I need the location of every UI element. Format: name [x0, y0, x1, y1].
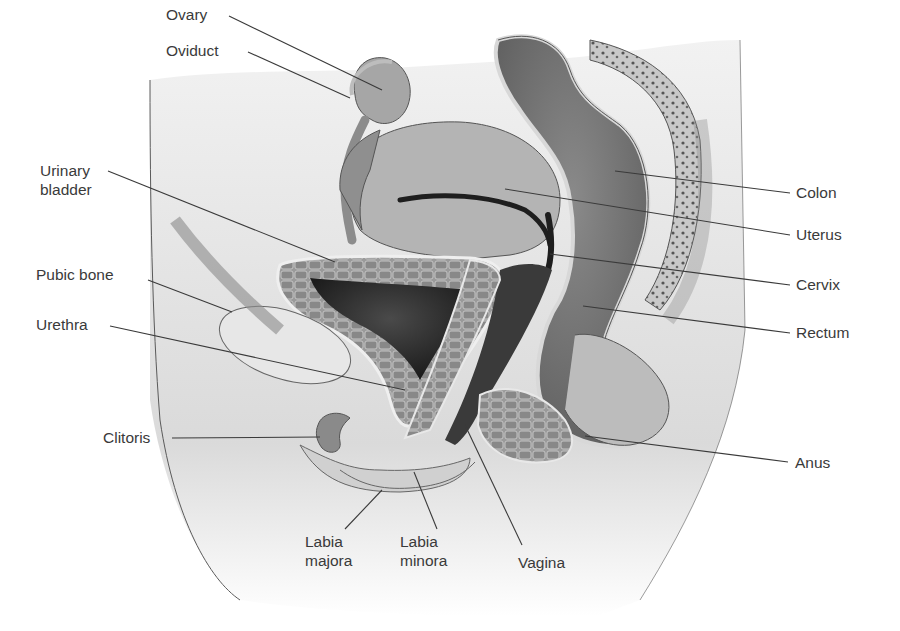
label-colon: Colon: [796, 184, 837, 201]
label-vagina: Vagina: [518, 554, 565, 571]
label-urinary-bladder: Urinarybladder: [40, 162, 92, 198]
anatomy-figure: OvaryOviductUrinarybladderPubic boneUret…: [0, 0, 900, 631]
label-urethra: Urethra: [36, 316, 88, 333]
label-pubic-bone: Pubic bone: [36, 266, 114, 283]
label-anus: Anus: [795, 454, 831, 471]
label-cervix: Cervix: [796, 276, 840, 293]
label-oviduct: Oviduct: [166, 42, 219, 59]
label-ovary: Ovary: [166, 6, 208, 23]
label-clitoris: Clitoris: [103, 429, 151, 446]
label-rectum: Rectum: [796, 324, 849, 341]
label-uterus: Uterus: [796, 226, 842, 243]
